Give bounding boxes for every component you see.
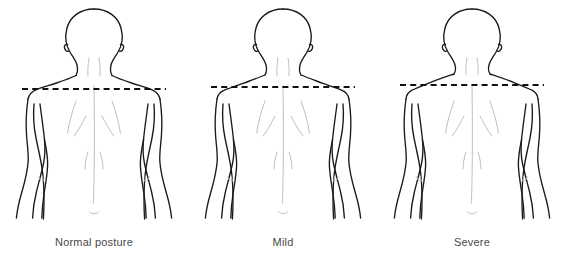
scapula-inner-right — [480, 116, 492, 136]
figure-caption-severe: Severe — [378, 236, 566, 249]
figure-caption-normal: Normal posture — [0, 236, 188, 249]
outer-arm-right — [538, 99, 550, 218]
figure-panel-severe: Severe — [378, 0, 566, 267]
head-outline — [66, 9, 94, 76]
head-outline-right — [472, 9, 500, 74]
neck-crease-right — [288, 58, 289, 76]
neck-crease-right — [99, 58, 100, 76]
scapula-inner-left — [263, 116, 275, 136]
scapula-right — [112, 101, 120, 133]
scapula-inner-left — [74, 116, 86, 136]
outer-arm-left — [16, 99, 28, 218]
scapula-left — [68, 101, 76, 133]
scapula-left — [257, 101, 265, 133]
head-outline — [255, 9, 283, 75]
scapula-right — [490, 101, 498, 133]
scapula-inner-right — [291, 116, 303, 136]
body-figure-normal — [0, 0, 188, 232]
gluteal-cleft — [279, 212, 288, 214]
lumbar-dimple-right — [289, 152, 292, 169]
lumbar-dimple-left — [274, 152, 277, 169]
spine-line — [471, 86, 472, 203]
lumbar-dimple-right — [478, 152, 481, 169]
scapula-left — [446, 101, 454, 133]
spine-line — [282, 86, 283, 203]
body-figure-severe — [378, 0, 566, 232]
neck-crease-left — [277, 58, 278, 76]
scapula-inner-right — [102, 116, 114, 136]
spine-line — [93, 86, 94, 203]
figure-panel-mild: Mild — [189, 0, 377, 267]
outer-arm-right — [349, 99, 361, 218]
scapula-inner-left — [452, 116, 464, 136]
head-outline-right — [94, 9, 122, 76]
body-figure-mild — [189, 0, 377, 232]
outer-arm-left — [205, 99, 217, 218]
gluteal-cleft — [90, 212, 99, 214]
neck-crease-right — [477, 58, 478, 75]
lumbar-dimple-right — [100, 152, 103, 169]
neck-crease-left — [88, 58, 89, 76]
trapezius-left — [28, 76, 76, 100]
outer-arm-right — [160, 99, 172, 218]
gluteal-cleft — [468, 212, 477, 214]
trapezius-left — [406, 74, 454, 99]
posture-comparison-illustration: Normal posture — [0, 0, 566, 267]
head-outline — [444, 9, 472, 74]
outer-arm-left — [394, 99, 406, 218]
lumbar-dimple-left — [85, 152, 88, 169]
scapula-right — [301, 101, 309, 133]
figure-panel-normal: Normal posture — [0, 0, 188, 267]
lumbar-dimple-left — [463, 152, 466, 169]
trapezius-right — [490, 74, 538, 99]
head-outline-right — [283, 9, 311, 75]
figure-caption-mild: Mild — [189, 236, 377, 249]
neck-crease-left — [466, 58, 467, 75]
trapezius-right — [112, 76, 160, 100]
